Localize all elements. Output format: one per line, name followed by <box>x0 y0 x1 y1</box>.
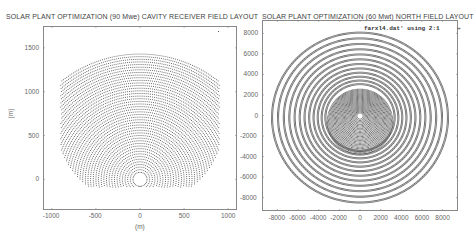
right-y-tick-label: 6000 <box>244 50 258 57</box>
right-x-tick-label: 8000 <box>435 214 449 221</box>
right-y-tick-label: 2000 <box>244 91 258 98</box>
right-x-tick-label: -4000 <box>310 214 327 221</box>
right-x-tick-label: 6000 <box>415 214 429 221</box>
right-y-tick-label: -2000 <box>240 132 257 139</box>
right-y-tick-label: 0 <box>254 112 258 119</box>
right-x-tick-label: 4000 <box>394 214 408 221</box>
right-x-tick-label: 2000 <box>373 214 387 221</box>
legend-label: farxl4.dat' using 2:1 <box>364 25 440 32</box>
right-y-tick-label: 4000 <box>244 70 258 77</box>
right-x-tick-label: -8000 <box>268 214 285 221</box>
right-scatter-plot <box>0 0 475 238</box>
right-x-tick-label: 0 <box>358 214 362 221</box>
right-x-tick-label: -6000 <box>289 214 306 221</box>
right-y-tick-label: -8000 <box>240 194 257 201</box>
right-y-tick-label: -6000 <box>240 173 257 180</box>
right-x-tick-label: -2000 <box>330 214 347 221</box>
right-y-tick-label: -4000 <box>240 153 257 160</box>
legend-marker-icon: + <box>457 25 461 32</box>
right-y-tick-label: 8000 <box>244 29 258 36</box>
right-legend: farxl4.dat' using 2:1 + <box>364 25 461 32</box>
